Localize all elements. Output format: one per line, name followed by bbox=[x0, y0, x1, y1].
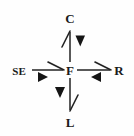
edge-f-l-barb bbox=[70, 95, 78, 111]
edge-f-r bbox=[77, 62, 111, 82]
edge-se-f-barb bbox=[48, 62, 64, 70]
edge-f-c-barb bbox=[62, 31, 70, 47]
node-label-f: F bbox=[66, 63, 74, 78]
node-label-c: C bbox=[65, 11, 74, 26]
edge-f-c-down-triangle-icon bbox=[76, 36, 86, 47]
diagram-canvas: C R L SE F bbox=[0, 0, 134, 136]
edge-f-c bbox=[62, 31, 85, 62]
edge-f-l-down-triangle-icon bbox=[55, 87, 65, 98]
edge-se-f bbox=[32, 62, 64, 82]
node-label-r: R bbox=[114, 63, 124, 78]
force-diagram: C R L SE F bbox=[0, 0, 134, 136]
edge-f-l bbox=[55, 78, 78, 111]
edge-f-r-barb bbox=[95, 62, 111, 70]
node-label-l: L bbox=[66, 115, 75, 130]
node-label-se: SE bbox=[12, 65, 25, 77]
edge-f-r-left-triangle-icon bbox=[91, 72, 101, 82]
edge-se-f-right-triangle-icon bbox=[38, 72, 48, 82]
